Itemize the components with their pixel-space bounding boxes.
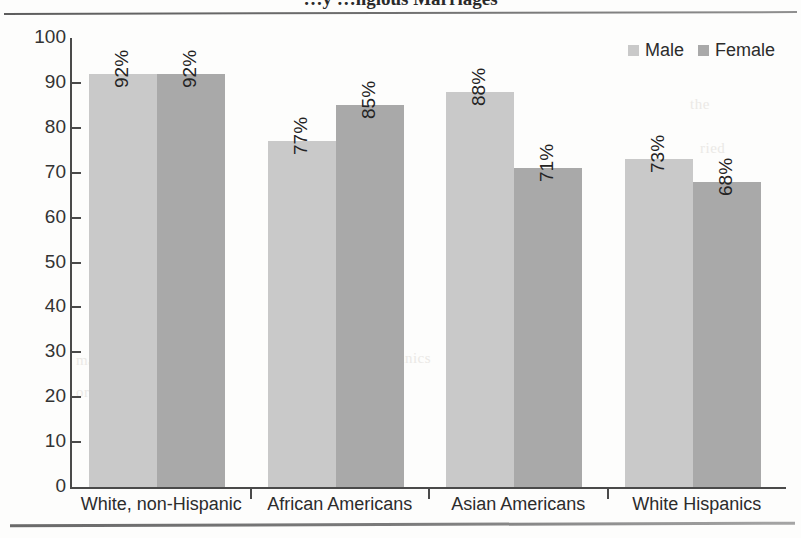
bar-female [336,105,404,487]
bar-value-label: 71% [536,144,558,182]
bar-value-label: 92% [179,50,201,88]
x-axis-category-label: White, non-Hispanic [72,494,251,515]
y-axis-tick [72,82,81,84]
y-axis-tick-label: 0 [16,475,66,495]
y-axis-tick [72,262,81,264]
y-axis-tick [72,217,81,219]
chart-legend: MaleFemale [628,40,775,61]
scanned-page: theriedlessAmerican Hispanicsnicweremarc… [0,0,801,538]
legend-item-female: Female [698,40,775,61]
y-axis-tick-label-text: 20 [26,385,66,407]
bar-value-label: 92% [111,50,133,88]
x-axis-category-label: African Americans [251,494,430,515]
y-axis-tick [72,441,81,443]
y-axis-tick-label: 20 [16,385,66,405]
y-axis-tick-label-text: 40 [26,295,66,317]
bar-male [89,74,157,487]
bar-value-label: 73% [647,135,669,173]
bar-value-label: 88% [468,68,490,106]
bar-value-label: 68% [715,158,737,196]
bar-female [693,182,761,487]
y-axis-tick [72,172,81,174]
y-axis-tick-label: 90 [16,71,66,91]
bar-female [514,168,582,487]
bar-male [625,159,693,487]
bar-value-label: 85% [358,81,380,119]
y-axis-tick-label: 80 [16,116,66,136]
y-axis-tick-label-text: 0 [26,475,66,497]
y-axis-tick-label-text: 70 [26,161,66,183]
y-axis-tick [72,306,81,308]
x-axis-category-label: White Hispanics [608,494,787,515]
y-axis-tick [72,396,81,398]
y-axis-tick-label-text: 60 [26,206,66,228]
y-axis-tick [72,127,81,129]
legend-swatch-female [698,45,709,56]
y-axis-line [70,38,72,489]
y-axis-tick-label-text: 90 [26,71,66,93]
y-axis-tick-label: 100 [16,26,66,46]
bar-male [446,92,514,487]
y-axis-tick-label-text: 50 [26,251,66,273]
legend-label: Female [715,40,775,61]
y-axis-tick [72,351,81,353]
x-axis-category-label: Asian Americans [429,494,608,515]
bar-male [268,141,336,487]
bar-value-label: 77% [290,117,312,155]
bar-female [157,74,225,487]
y-axis-tick-label-text: 100 [26,26,66,48]
y-axis-tick-label: 10 [16,430,66,450]
y-axis-tick-label: 60 [16,206,66,226]
legend-swatch-male [628,45,639,56]
y-axis-tick-label-text: 10 [26,430,66,452]
legend-label: Male [645,40,684,61]
y-axis-tick-label: 40 [16,295,66,315]
y-axis-tick-label: 50 [16,251,66,271]
legend-item-male: Male [628,40,684,61]
y-axis-tick-label-text: 30 [26,340,66,362]
chart-plot-area: 0102030405060708090100 92%92%77%85%88%71… [0,0,801,538]
y-axis-tick-label: 30 [16,340,66,360]
y-axis-tick-label: 70 [16,161,66,181]
y-axis-tick-label-text: 80 [26,116,66,138]
